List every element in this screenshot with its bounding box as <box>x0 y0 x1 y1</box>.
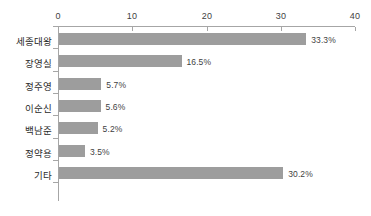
bar <box>59 55 182 67</box>
bar <box>59 33 306 45</box>
x-axis-tick <box>207 27 208 31</box>
bar-chart: 010203040 세종대왕33.3%장영실16.5%정주영5.7%이순신5.6… <box>0 0 371 216</box>
y-axis-tick <box>53 160 58 161</box>
y-axis-tick <box>53 93 58 94</box>
bar-value-label: 16.5% <box>187 57 212 67</box>
y-axis-tick <box>53 26 58 27</box>
bar <box>59 122 98 134</box>
bar-value-label: 33.3% <box>311 35 336 45</box>
y-axis-tick <box>53 71 58 72</box>
x-axis-tick <box>355 27 356 31</box>
x-axis-tick-label: 20 <box>202 11 212 21</box>
x-axis-tick-label: 10 <box>127 11 137 21</box>
x-axis-tick <box>132 27 133 31</box>
category-label: 세종대왕 <box>16 34 52 48</box>
bar <box>59 145 85 157</box>
bar-value-label: 5.2% <box>103 124 123 134</box>
x-axis-tick-label: 0 <box>55 11 60 21</box>
category-label: 정약용 <box>25 146 52 160</box>
y-axis-tick <box>53 182 58 183</box>
y-axis-tick <box>53 138 58 139</box>
category-label: 기타 <box>34 168 52 182</box>
x-axis-tick <box>58 27 59 31</box>
category-label: 장영실 <box>25 56 52 70</box>
bar-value-label: 5.7% <box>106 80 126 90</box>
x-axis-tick <box>281 27 282 31</box>
bar-value-label: 5.6% <box>106 102 126 112</box>
x-axis-tick-label: 30 <box>276 11 286 21</box>
y-axis-tick <box>53 115 58 116</box>
bar-value-label: 30.2% <box>288 169 313 179</box>
bar <box>59 100 101 112</box>
category-label: 백남준 <box>25 123 52 137</box>
y-axis-tick <box>53 48 58 49</box>
plot-area: 010203040 세종대왕33.3%장영실16.5%정주영5.7%이순신5.6… <box>0 0 371 216</box>
category-label: 이순신 <box>25 101 52 115</box>
bar <box>59 78 101 90</box>
bar-value-label: 3.5% <box>90 147 110 157</box>
bar <box>59 167 283 179</box>
x-axis-tick-label: 40 <box>350 11 360 21</box>
category-label: 정주영 <box>25 79 52 93</box>
